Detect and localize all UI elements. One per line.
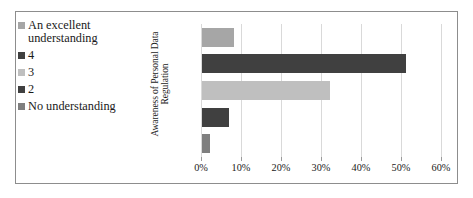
legend-item[interactable]: An excellent understanding [18, 19, 153, 45]
bar-row [201, 130, 441, 157]
bar-row [201, 77, 441, 104]
legend-item[interactable]: 4 [18, 49, 153, 62]
chart-legend: An excellent understanding432No understa… [18, 19, 153, 117]
bar-row [201, 104, 441, 131]
x-axis-tick [201, 157, 202, 161]
legend-swatch-icon [18, 52, 25, 59]
legend-item-label: An excellent understanding [28, 19, 98, 45]
x-axis-tick [401, 157, 402, 161]
legend-swatch-icon [18, 22, 25, 29]
x-axis-tick [241, 157, 242, 161]
x-axis-tick-label: 20% [272, 162, 291, 174]
x-axis-tick-label: 10% [232, 162, 251, 174]
legend-swatch-icon [18, 69, 25, 76]
plot-area [201, 24, 441, 157]
chart-screenshot: An excellent understanding432No understa… [0, 0, 473, 198]
legend-item-label: 2 [28, 83, 34, 96]
bar[interactable] [202, 108, 229, 127]
legend-swatch-icon [18, 86, 25, 93]
legend-item[interactable]: No understanding [18, 100, 153, 113]
gridline [441, 24, 442, 157]
x-axis-tick [321, 157, 322, 161]
x-axis-tick-label: 50% [392, 162, 411, 174]
x-axis-tick-label: 0% [194, 162, 208, 174]
bar[interactable] [202, 54, 406, 73]
x-axis-tick-label: 30% [312, 162, 331, 174]
legend-swatch-icon [18, 103, 25, 110]
legend-item-label: No understanding [28, 100, 116, 113]
y-axis-title-line-2: Regulation [160, 18, 170, 150]
y-axis-title: Awareness of Personal Data Regulation [150, 18, 166, 150]
legend-item-label: 3 [28, 66, 34, 79]
bar-row [201, 51, 441, 78]
legend-item[interactable]: 2 [18, 83, 153, 96]
bar[interactable] [202, 81, 330, 100]
bar-row [201, 24, 441, 51]
x-axis-labels: 0%10%20%30%40%50%60% [201, 162, 441, 176]
x-axis-tick [361, 157, 362, 161]
x-axis-tick-label: 60% [432, 162, 451, 174]
x-axis-tick [281, 157, 282, 161]
x-axis-tick-label: 40% [352, 162, 371, 174]
legend-item-label: 4 [28, 49, 34, 62]
bar[interactable] [202, 28, 234, 47]
x-axis-tick [441, 157, 442, 161]
bar[interactable] [202, 134, 210, 153]
legend-item[interactable]: 3 [18, 66, 153, 79]
